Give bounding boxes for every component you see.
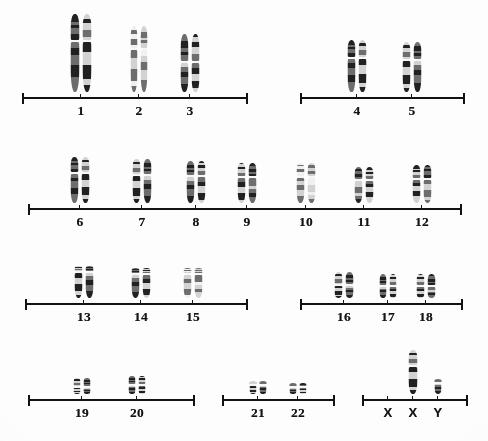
chromosome-band [366, 176, 374, 179]
chromosome [417, 274, 425, 298]
chromosome-band [129, 392, 136, 394]
chromosome-band [86, 270, 94, 271]
chromosome [359, 40, 367, 92]
chromosome-label-11: 11 [357, 215, 370, 229]
chromosome [75, 266, 83, 298]
chromosome-band [424, 200, 432, 203]
chromosome-band [308, 185, 316, 192]
axis-tick [81, 396, 82, 401]
chromosome [335, 272, 343, 298]
chromosome-pair-10 [297, 163, 316, 203]
chromosome-arm-short [238, 163, 246, 176]
chromosome-band [346, 282, 354, 284]
chromosome-pair-12 [413, 165, 432, 203]
chromosome-arm-short [74, 378, 81, 386]
chromosome-pair-4 [348, 40, 367, 92]
chromosome [181, 34, 189, 92]
chromosome-arm-long [132, 275, 140, 298]
axis-tick [138, 94, 139, 99]
chromosome-label-2: 2 [136, 104, 143, 118]
chromosome-band [403, 67, 411, 75]
chromosome-band [308, 178, 316, 185]
chromosome-arm-long [308, 178, 316, 203]
chromosome-band [75, 284, 83, 291]
chromosome-band [414, 83, 422, 92]
chromosome-label-19: 19 [75, 406, 89, 420]
chromosome-arm-long [141, 50, 148, 92]
chromosome-band [131, 50, 138, 58]
chromosome-arm-short [198, 161, 206, 175]
chromosome-arm-long [129, 386, 136, 394]
chromosome-arm-long [184, 275, 192, 298]
chromosome-arm-long [435, 384, 442, 394]
chromosome-band [359, 74, 367, 83]
chromosome-band [83, 52, 92, 65]
chromosome-arm-short [82, 157, 90, 172]
chromosome-arm-short [335, 272, 343, 284]
chromosome-band [192, 88, 200, 92]
chromosome-arm-short [250, 381, 257, 384]
chromosome-label-7: 7 [139, 215, 146, 229]
chromosome-band [238, 200, 246, 203]
chromosome-arm-short [428, 274, 436, 285]
axis-tick [246, 205, 247, 210]
chromosome-band [181, 34, 189, 41]
chromosome-arm-long [84, 388, 91, 394]
chromosome-arm-short [86, 266, 94, 271]
chromosome-band [84, 392, 91, 394]
chromosome-band [74, 393, 81, 394]
chromosome-band [250, 383, 257, 384]
chromosome-band [141, 62, 148, 69]
chromosome [435, 379, 442, 394]
chromosome-label-3: 3 [187, 104, 194, 118]
chromosome-arm-short [346, 272, 354, 284]
chromosome [366, 167, 374, 203]
chromosome-band [297, 196, 305, 203]
chromosome-band [132, 292, 140, 298]
ruler-axis: 161718 [300, 303, 461, 305]
ruler-axis: 1920 [28, 399, 193, 401]
axis-tick [83, 300, 84, 305]
axis-tick [79, 205, 80, 210]
chromosome-pair-8 [187, 161, 206, 203]
chromosome-pair-5 [403, 42, 422, 92]
chromosome [355, 167, 363, 203]
chromosome-band [198, 171, 206, 175]
chromosome [143, 268, 151, 298]
chromosome-label-1: 1 [78, 104, 85, 118]
chromosome-arm-short [414, 42, 422, 59]
chromosome-band [75, 295, 83, 298]
chromosome-band [187, 189, 195, 196]
chromosome-arm-long [414, 61, 422, 92]
chromosome [184, 268, 192, 298]
chromosome-band [308, 199, 316, 203]
chromosome [380, 274, 387, 298]
chromosome-band [192, 54, 200, 61]
chromosome-arm-short [195, 268, 203, 273]
chromosome [192, 34, 200, 92]
chromosome-arm-short [192, 34, 200, 61]
chromosome-arm-long [83, 42, 92, 92]
chromosome [83, 14, 92, 92]
chromosome [409, 350, 418, 394]
chromosome-band [414, 75, 422, 83]
chromosome-pair-3 [181, 34, 200, 92]
chromosome-band [290, 392, 297, 394]
chromosome-band [290, 385, 297, 386]
axis-tick [363, 205, 364, 210]
ruler-axis: 2122 [222, 399, 333, 401]
chromosome-arm-short [75, 266, 83, 271]
chromosome [198, 161, 206, 203]
chromosome-band [82, 199, 90, 203]
chromosome-label-9: 9 [244, 215, 251, 229]
chromosome-band [192, 47, 200, 54]
chromosome-label-22: 22 [291, 406, 305, 420]
axis-tick [437, 396, 438, 401]
chromosome-band [71, 188, 79, 195]
chromosome-pair-18 [417, 274, 436, 298]
chromosome-band [71, 65, 80, 76]
chromosome-arm-long [249, 178, 257, 203]
chromosome-arm-short [424, 165, 432, 178]
chromosome-arm-short [131, 26, 138, 48]
chromosome-band [82, 187, 90, 195]
